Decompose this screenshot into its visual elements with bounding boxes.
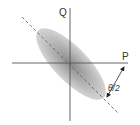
q-axis-label: Q <box>59 7 67 18</box>
angle-label: θ/2 <box>108 83 120 93</box>
polarization-ellipse-diagram: Q P θ/2 <box>0 0 140 125</box>
ellipse <box>26 18 116 109</box>
p-axis-label: P <box>122 51 129 62</box>
